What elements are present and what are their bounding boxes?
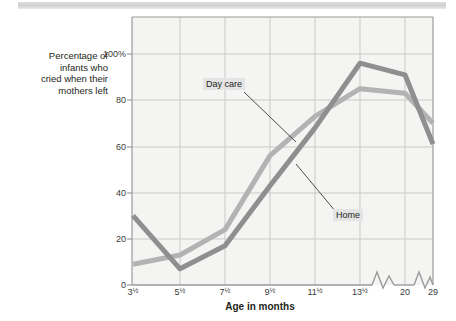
plot-background <box>132 17 433 285</box>
chart-figure: Percentage of infants who cried when the… <box>0 0 456 321</box>
chart-plot-svg <box>0 0 456 321</box>
day-care-series-label: Day care <box>203 78 245 90</box>
y-axis-ticks <box>127 54 132 285</box>
home-series-label: Home <box>333 209 363 221</box>
